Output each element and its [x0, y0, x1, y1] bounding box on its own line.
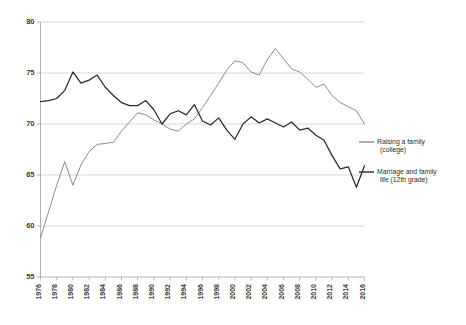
- x-tick-label: 1990: [148, 284, 155, 300]
- x-tick-label: 1984: [99, 284, 106, 300]
- grid-lines: [41, 22, 365, 277]
- y-tick-label: 70: [26, 119, 34, 128]
- x-tick-label: 2014: [342, 284, 349, 300]
- x-tick-label: 1978: [51, 284, 58, 300]
- chart-legend: Raising a family(college)Marriage and fa…: [359, 138, 437, 185]
- x-tick-label: 2012: [326, 284, 333, 300]
- x-tick-label: 1994: [180, 284, 187, 300]
- y-tick-label: 65: [26, 170, 34, 179]
- x-tick-label: 2002: [245, 284, 252, 300]
- y-axis: 556065707580: [26, 17, 40, 281]
- legend-label-0-line2: (college): [380, 146, 406, 154]
- x-tick-label: 1992: [164, 284, 171, 300]
- x-tick-label: 1996: [197, 284, 204, 300]
- y-tick-label: 55: [26, 272, 34, 281]
- series-line-1: [41, 72, 365, 187]
- x-tick-label: 1998: [213, 284, 220, 300]
- y-tick-label: 80: [26, 17, 34, 26]
- legend-label-1-line2: life (12th grade): [380, 176, 428, 184]
- y-tick-label: 75: [26, 68, 34, 77]
- x-tick-label: 2016: [359, 284, 366, 300]
- x-tick-label: 1976: [35, 284, 42, 300]
- x-tick-label: 2006: [278, 284, 285, 300]
- x-tick-label: 2010: [310, 284, 317, 300]
- legend-label-1: Marriage and family: [377, 168, 437, 176]
- line-chart: 556065707580 197619781980198219841986198…: [0, 0, 466, 325]
- x-tick-label: 1982: [83, 284, 90, 300]
- x-tick-label: 1980: [67, 284, 74, 300]
- x-tick-label: 2000: [229, 284, 236, 300]
- chart-container: 556065707580 197619781980198219841986198…: [0, 0, 466, 325]
- x-tick-label: 1986: [116, 284, 123, 300]
- y-tick-label: 60: [26, 221, 34, 230]
- x-tick-label: 2008: [294, 284, 301, 300]
- series-line-0: [41, 49, 365, 239]
- x-tick-label: 1988: [132, 284, 139, 300]
- legend-label-0: Raising a family: [377, 138, 426, 146]
- x-tick-label: 2004: [261, 284, 268, 300]
- series-lines: [41, 49, 365, 239]
- x-axis: 1976197819801982198419861988199019921994…: [35, 277, 366, 300]
